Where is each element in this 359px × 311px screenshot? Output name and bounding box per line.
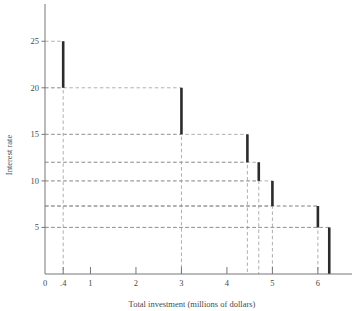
- bars-group: [63, 41, 329, 274]
- x-tick-label: 1: [88, 278, 92, 288]
- x-tick-label: .4: [60, 278, 67, 288]
- x-tick-label: 6: [316, 278, 320, 288]
- chart-canvas: 510152025 0.4123456 Interest rate Total …: [0, 0, 359, 311]
- x-tick-label: 3: [179, 278, 183, 288]
- x-tick-label: 0: [43, 278, 47, 288]
- y-tick-label: 25: [31, 36, 40, 46]
- x-axis-title: Total investment (millions of dollars): [129, 299, 256, 309]
- y-axis-title: Interest rate: [4, 135, 14, 176]
- y-tick-label: 15: [31, 129, 40, 139]
- y-tick-label: 20: [31, 83, 40, 93]
- x-tick-label: 4: [225, 278, 230, 288]
- x-tick-label: 2: [134, 278, 138, 288]
- grid-guides: [45, 41, 329, 274]
- y-tick-label: 5: [35, 222, 39, 232]
- x-tick-label: 5: [270, 278, 274, 288]
- x-axis-ticks: 0.4123456: [43, 267, 320, 288]
- y-tick-label: 10: [31, 176, 40, 186]
- y-axis-ticks: 510152025: [31, 36, 46, 232]
- investment-demand-chart: 510152025 0.4123456 Interest rate Total …: [0, 0, 359, 311]
